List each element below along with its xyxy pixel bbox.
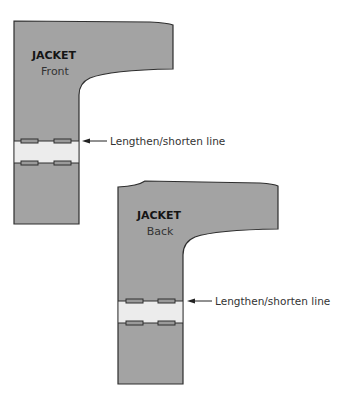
front-callout: Lengthen/shorten line [82,135,225,147]
front-notch [54,161,71,165]
front-callout-label: Lengthen/shorten line [110,135,225,147]
back-callout: Lengthen/shorten line [187,295,330,307]
back-notch [158,321,175,325]
jacket-back-piece: JACKET Back [118,181,278,384]
back-notch [158,299,175,303]
front-title: JACKET [31,49,77,62]
front-notch [21,161,38,165]
back-lengthen-band [119,301,183,323]
back-subtitle: Back [147,225,174,238]
back-notch [126,299,143,303]
front-notch [21,139,38,143]
back-notch [126,321,143,325]
front-notch [54,139,71,143]
back-title: JACKET [136,209,182,222]
pattern-diagram: JACKET Front Lengthen/shorten line JACKE… [0,0,349,402]
front-lengthen-band [15,141,79,163]
back-callout-label: Lengthen/shorten line [215,295,330,307]
front-subtitle: Front [41,65,70,78]
